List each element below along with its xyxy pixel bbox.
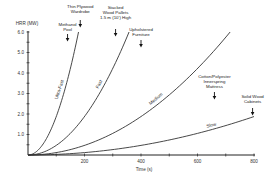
annotation-label: Wardrobe <box>71 9 91 14</box>
curve-label: Slow <box>206 121 217 128</box>
y-tick-label: 5.0 <box>18 50 25 55</box>
annotation-label: Furniture <box>132 32 150 37</box>
y-tick-label: 6.0 <box>18 30 25 35</box>
arrowhead-icon <box>114 33 118 37</box>
y-tick-label: 1.0 <box>18 132 25 137</box>
x-tick-label: 800 <box>250 159 258 164</box>
curve-label: Medium <box>148 92 164 106</box>
x-axis-title: Time (s) <box>136 167 153 172</box>
arrowhead-icon <box>251 112 255 116</box>
arrowhead-icon <box>139 44 143 48</box>
annotation-label: Cabinets <box>244 99 262 104</box>
curve-fast <box>28 32 129 155</box>
curve-slow <box>28 117 254 155</box>
hrr-chart: 2004006008001.02.03.04.05.06.0Time (s)HR… <box>0 0 277 179</box>
curve-ultra-fast <box>28 32 79 155</box>
plot-area: 2004006008001.02.03.04.05.06.0Time (s)HR… <box>16 4 265 172</box>
arrowhead-icon <box>66 38 70 42</box>
arrowhead-icon <box>78 24 82 28</box>
x-tick-label: 400 <box>137 159 145 164</box>
y-tick-label: 3.0 <box>18 91 25 96</box>
curve-label: Ultra-Fast <box>54 78 65 99</box>
x-tick-label: 200 <box>81 159 89 164</box>
y-tick-label: 4.0 <box>18 71 25 76</box>
annotation-label: Mattress <box>206 84 224 89</box>
y-tick-label: 2.0 <box>18 112 25 117</box>
x-tick-label: 600 <box>194 159 202 164</box>
arrowhead-icon <box>213 96 217 100</box>
annotation-label: Pool <box>63 27 72 32</box>
annotation-label: 1.5 m (10') High <box>100 15 132 20</box>
y-axis-title: HRR (MW) <box>16 21 39 26</box>
